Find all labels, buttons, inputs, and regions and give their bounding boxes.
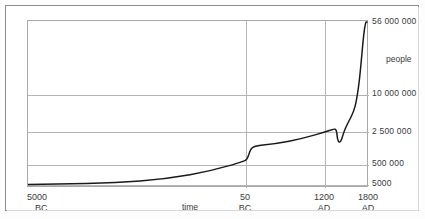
- x-tick-1800ad-line2: AD: [344, 203, 392, 214]
- figure-frame: 56 000 000 10 000 000 2 500 000 500 000 …: [5, 5, 419, 211]
- y-tick-label-56000000: 56 000 000: [372, 17, 417, 26]
- population-growth-chart-figure: 56 000 000 10 000 000 2 500 000 500 000 …: [0, 0, 425, 219]
- plot-canvas: [28, 21, 369, 188]
- x-tick-50bc-line1: 50: [221, 192, 269, 203]
- x-tick-5000bc-line2: BC: [27, 203, 66, 214]
- y-axis-unit-label: people: [386, 54, 412, 64]
- horizontal-gridlines: [28, 96, 369, 186]
- y-tick-label-500000: 500 000: [372, 159, 404, 168]
- y-tick-label-5000: 5000: [372, 179, 392, 188]
- x-tick-50bc-line2: BC: [221, 203, 269, 214]
- x-axis-title: time: [182, 202, 198, 212]
- x-tick-1200ad-line1: 1200: [300, 192, 348, 203]
- x-tick-5000bc-line1: 5000: [27, 192, 66, 203]
- y-tick-label-2500000: 2 500 000: [372, 127, 412, 136]
- y-tick-label-10000000: 10 000 000: [372, 89, 417, 98]
- population-curve: [28, 22, 367, 184]
- x-tick-label-5000bc: 5000 BC: [22, 192, 66, 213]
- x-tick-label-1200ad: 1200 AD: [300, 192, 348, 213]
- vertical-gridlines: [247, 21, 326, 188]
- x-tick-label-50bc: 50 BC: [221, 192, 269, 213]
- x-tick-1800ad-line1: 1800: [344, 192, 392, 203]
- x-tick-label-1800ad: 1800 AD: [344, 192, 392, 213]
- x-tick-1200ad-line2: AD: [300, 203, 348, 214]
- plot-area: [27, 20, 368, 187]
